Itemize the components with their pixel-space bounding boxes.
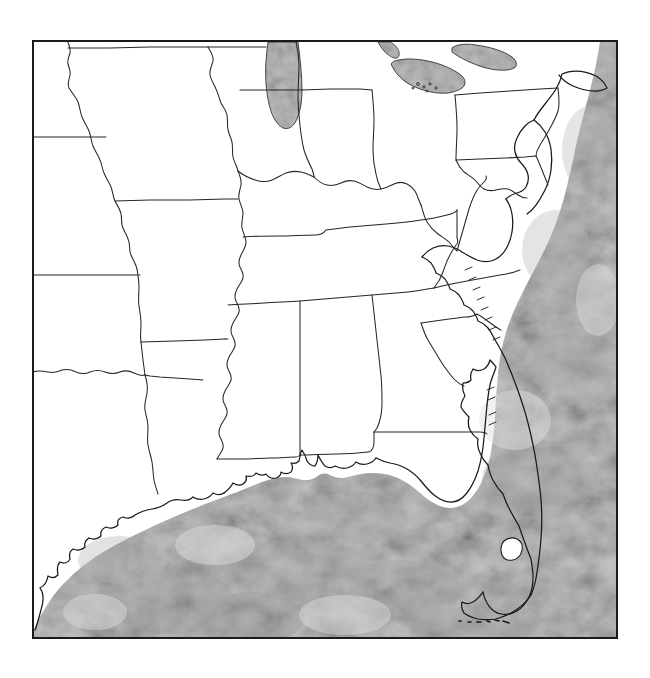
map-canvas: [0, 0, 650, 678]
florida-keys-segment-3: [487, 621, 490, 622]
florida-keys-segment-2: [495, 620, 499, 621]
lake-okeechobee: [501, 538, 522, 560]
map-figure: Blank outline map of the Southeastern Un…: [0, 0, 650, 678]
